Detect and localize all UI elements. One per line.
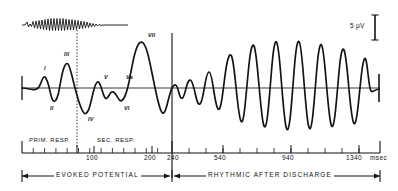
component-label-II: II [50, 106, 53, 112]
tick-label-240: 240 [167, 155, 179, 162]
tick-label-100: 100 [86, 155, 98, 162]
component-label-IV: IV [88, 117, 94, 123]
secondary-response-label: SEC. RESP. [97, 137, 135, 143]
after-discharge-band-label: RHYTHMIC AFTER DISCHARGE [206, 172, 334, 179]
component-label-I: I [44, 66, 46, 72]
tick-label-940: 940 [282, 155, 294, 162]
primary-response-label: PRIM. RESP. [29, 137, 70, 143]
evoked-potential-trace [22, 42, 172, 114]
figure-root: 5 μV I II III IV V Va VI VII PRIM. RESP.… [0, 0, 398, 191]
after-discharge-trace [172, 41, 380, 129]
scale-bar-label: 5 μV [350, 23, 365, 30]
component-label-VII: VII [148, 33, 155, 39]
component-label-VI: VI [124, 106, 130, 112]
evoked-potential-band-label: EVOKED POTENTIAL [54, 172, 141, 179]
component-label-Va: Va [126, 75, 133, 81]
figure-canvas [0, 0, 398, 191]
component-label-III: III [64, 52, 69, 58]
tick-label-1340: 1340 [346, 155, 362, 162]
component-label-V: V [104, 75, 108, 81]
tick-label-200: 200 [144, 155, 156, 162]
tick-label-540: 540 [214, 155, 226, 162]
scale-bar [372, 15, 379, 40]
time-unit-label: msec [370, 155, 387, 162]
time-axis [22, 141, 380, 153]
eeg-spindle-inset [22, 19, 128, 31]
